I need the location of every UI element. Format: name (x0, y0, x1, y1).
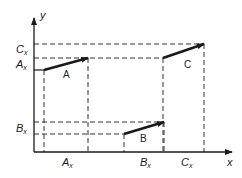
vector-c-label: C (184, 59, 191, 70)
y-label-ax: Ax (15, 58, 27, 71)
x-axis-label: x (226, 156, 233, 168)
vector-components-diagram: A B C y x Cx Ax Bx Ax Bx Cx (0, 0, 242, 178)
vector-a-label: A (63, 69, 70, 80)
x-label-cx: Cx (181, 156, 193, 169)
y-axis-label: y (39, 9, 47, 21)
y-label-cx: Cx (16, 43, 28, 56)
vector-b-label: B (140, 133, 147, 144)
x-label-ax: Ax (61, 156, 73, 169)
y-label-bx: Bx (16, 122, 27, 135)
vector-c (163, 44, 204, 58)
x-label-bx: Bx (140, 156, 151, 169)
dashed-guides (34, 44, 204, 152)
